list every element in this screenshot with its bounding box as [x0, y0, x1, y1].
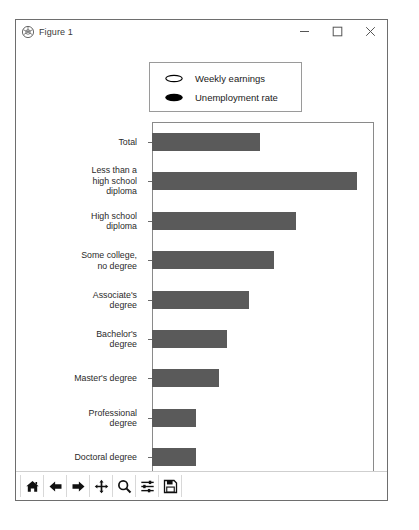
bar: [152, 330, 227, 348]
y-axis-label: High school diploma: [91, 210, 137, 231]
legend-item: Weekly earnings: [150, 69, 301, 88]
legend-marker-unemployment-rate-icon: [164, 93, 184, 102]
save-floppy-icon[interactable]: [159, 475, 182, 497]
navigation-toolbar: [16, 471, 387, 500]
y-axis-label: Bachelor's degree: [96, 328, 137, 349]
y-axis-label: Some college, no degree: [81, 250, 137, 271]
legend-label-weekly-earnings: Weekly earnings: [195, 73, 265, 84]
y-axis-label: Master's degree: [74, 373, 137, 384]
bar: [152, 409, 196, 427]
y-axis-label: Total: [118, 136, 137, 147]
bar: [152, 251, 274, 269]
bar: [152, 291, 249, 309]
legend-label-unemployment-rate: Unemployment rate: [195, 92, 278, 103]
y-axis-label: Less than a high school diploma: [92, 165, 137, 197]
window-title: Figure 1: [39, 27, 73, 37]
y-axis-label: Associate's degree: [93, 289, 137, 310]
close-button[interactable]: [354, 20, 387, 43]
y-axis-label: Doctoral degree: [74, 452, 137, 463]
maximize-button[interactable]: [321, 20, 354, 43]
figure-canvas[interactable]: Weekly earnings Unemployment rate TotalL…: [16, 44, 387, 471]
bar: [152, 133, 260, 151]
figure-window: Figure 1: [15, 19, 388, 501]
bar: [152, 212, 296, 230]
matplotlib-icon: [21, 25, 35, 39]
configure-subplots-icon[interactable]: [136, 475, 159, 497]
window-titlebar[interactable]: Figure 1: [16, 20, 387, 44]
back-arrow-icon[interactable]: [44, 475, 67, 497]
bar: [152, 172, 357, 190]
forward-arrow-icon[interactable]: [67, 475, 90, 497]
bar: [152, 369, 219, 387]
bar: [152, 448, 196, 466]
zoom-magnifier-icon[interactable]: [113, 475, 136, 497]
home-icon[interactable]: [20, 475, 44, 497]
minimize-button[interactable]: [288, 20, 321, 43]
legend-marker-weekly-earnings-icon: [164, 74, 184, 83]
legend-item: Unemployment rate: [150, 88, 301, 107]
chart-legend: Weekly earnings Unemployment rate: [149, 62, 302, 112]
bars-layer: [152, 122, 374, 471]
pan-move-icon[interactable]: [90, 475, 113, 497]
screenshot-root: Figure 1: [0, 0, 419, 530]
y-axis-labels: TotalLess than a high school diplomaHigh…: [16, 122, 146, 471]
window-controls: [288, 20, 387, 43]
y-axis-label: Professional degree: [89, 407, 137, 428]
